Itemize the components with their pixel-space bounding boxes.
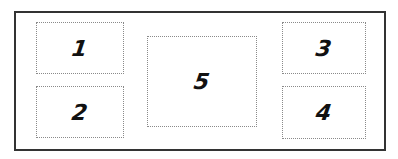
region-5: 5: [147, 36, 257, 127]
region-label: 3: [315, 36, 334, 61]
region-label: 2: [71, 100, 90, 125]
region-label: 4: [315, 100, 334, 125]
region-1: 1: [36, 22, 124, 74]
region-4: 4: [282, 86, 366, 139]
region-label: 1: [71, 36, 90, 61]
region-label: 5: [193, 69, 212, 94]
region-3: 3: [282, 22, 366, 74]
region-2: 2: [36, 86, 124, 138]
